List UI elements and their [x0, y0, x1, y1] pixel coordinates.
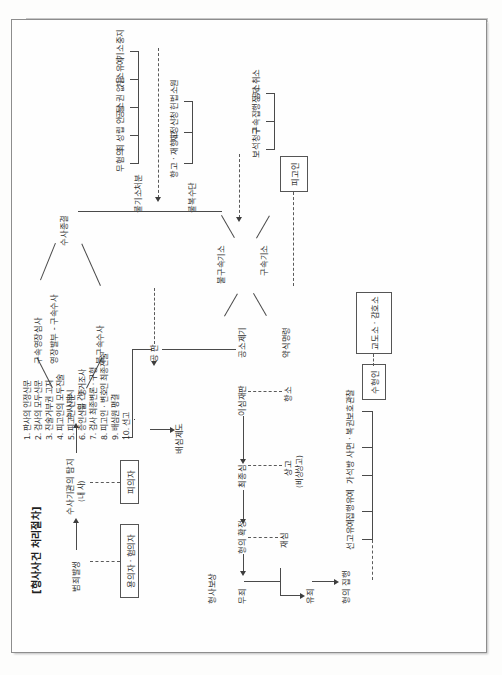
- accused-box: 피의자: [120, 460, 139, 504]
- connector-final-to-confirm: [243, 490, 244, 520]
- nonprosecution-tick: [130, 51, 139, 52]
- verdict-split-spine: [280, 568, 281, 596]
- arrow-left-icon: [240, 459, 246, 464]
- appeal-means-header: 불복수단: [188, 182, 197, 213]
- appeal-means-tick: [184, 101, 193, 102]
- page-title: [형사사건 처리절차]: [28, 506, 43, 594]
- link-convict-to-prison: [373, 354, 374, 366]
- trial-step-7: 8. 피고인 · 변호인 최종진술: [101, 353, 109, 440]
- defendant-right-2: 공소취소: [252, 69, 261, 100]
- arrow-left-icon: [240, 571, 246, 576]
- sentence-options-spine: [372, 412, 373, 540]
- link-to-first-appeal: [248, 391, 282, 392]
- defendant-rights-tick: [266, 121, 275, 122]
- nonprosecution-tick: [130, 135, 139, 136]
- flowchart-canvas: [형사사건 처리절차] 범죄발생 수사기관의 탐지 (내 사) 수사개시 (입 …: [12, 0, 482, 616]
- node-warrant-issued: 영장발부 - 구속수사: [50, 294, 59, 364]
- arrow-right-icon: [73, 518, 79, 523]
- merge-upper-branch: [40, 243, 56, 280]
- link-to-second-appeal: [248, 465, 282, 466]
- scanned-page: [형사사건 처리절차] 범죄발생 수사기관의 탐지 (내 사) 수사개시 (입 …: [0, 0, 502, 675]
- node-summary-order: 약식명령: [282, 327, 291, 358]
- sentence-tick: [362, 447, 373, 448]
- appeal-means-tick: [184, 163, 193, 164]
- defendant-box: 피고인: [280, 156, 308, 192]
- sentence-option-0: 선고유예: [346, 519, 355, 550]
- connector-trial-to-jury: [150, 429, 172, 430]
- node-trial: 공 판: [150, 344, 159, 362]
- merge-prosecution-lower: [253, 293, 267, 316]
- sentence-tick: [362, 475, 373, 476]
- sentence-option-3: 사면 · 복권: [346, 419, 355, 458]
- node-confirmation: 형의 확정: [238, 520, 247, 554]
- node-investigation-end: 수사종결: [60, 215, 69, 246]
- trial-step-9: 10. 선고: [123, 412, 131, 440]
- arrow-left-icon: [151, 361, 157, 366]
- link-rights-to-prosecution: [239, 154, 240, 218]
- nonprosecution-tick: [130, 107, 139, 108]
- prosecution-fork-upper: [221, 215, 235, 238]
- trial-step-8: 9. 배심원 평결: [112, 394, 120, 440]
- connector-first-to-final: [243, 430, 244, 460]
- appeal-means-bracket-spine: [192, 102, 193, 164]
- connector-confirm-to-verdict: [243, 554, 244, 572]
- nonprosecution-tick: [130, 79, 139, 80]
- link-accused-to-open: [90, 482, 120, 483]
- appeal-second-sub: (비상상고): [296, 455, 304, 488]
- node-criminal-compensation: 형사보상: [208, 573, 217, 604]
- defendant-rights-tick: [266, 149, 275, 150]
- appeal-means-tick: [184, 132, 193, 133]
- spine-indictment-to-trial: [162, 349, 236, 350]
- node-final-instance: 최종심: [238, 465, 247, 488]
- arrow-left-icon: [155, 197, 161, 202]
- sentence-option-4: 보호관찰: [346, 389, 355, 420]
- link-to-retrial: [248, 537, 278, 538]
- node-investigation-notice-sub: (내 사): [78, 481, 86, 502]
- verdict-branch-guilty: [280, 595, 302, 596]
- trial-step-1: 2. 검사의 모두신문: [35, 381, 43, 440]
- trial-steps-bracket-spine: [132, 350, 133, 438]
- link-summary-to-trial: [154, 288, 155, 344]
- defendant-rights-tick: [266, 93, 275, 94]
- sentence-tick: [362, 511, 373, 512]
- trial-step-5: 6. 증인신문 · 증거조사: [79, 369, 87, 440]
- link-suspect-to-notice: [90, 561, 120, 562]
- spacer: [134, 419, 135, 420]
- nonprosecution-item-0: 무혐의: [116, 149, 125, 172]
- arrow-left-icon: [236, 217, 242, 222]
- node-guilty: 유죄: [306, 588, 315, 604]
- appeal-retrial: 재심: [280, 532, 289, 548]
- node-detained-prosecution: 구속기소: [260, 245, 269, 276]
- connector-trial-to-first: [243, 416, 244, 430]
- node-jury-system: 배심제도: [175, 423, 184, 454]
- node-non-detained-prosecution: 불구속기소: [217, 245, 226, 284]
- trial-steps-stem: [132, 349, 152, 350]
- suspect-box: 용의자 · 혐의자: [120, 524, 139, 598]
- link-defendant-to-indictment: [293, 192, 294, 286]
- verdict-split-stem: [244, 581, 280, 582]
- appeal-first: 항소: [284, 386, 293, 402]
- arrow-down-icon: [170, 427, 175, 433]
- appeal-means-item-1: 재정신청: [170, 111, 179, 142]
- node-execution: 형의 집행: [342, 570, 351, 604]
- nonprosecution-item-4: 기소중지: [116, 29, 125, 60]
- trial-step-6: 7. 검사 최종변론 · 구형: [90, 367, 98, 440]
- connector-guilty-to-execution: [312, 581, 336, 582]
- trial-step-0: 1. 판사의 인정신문: [24, 381, 32, 440]
- trial-step-4: 5. 피고인 신문: [68, 394, 76, 440]
- node-indictment: 공소제기: [238, 327, 247, 358]
- nonprosecution-bracket-spine: [138, 52, 139, 164]
- connector-start-to-notice: [76, 522, 77, 550]
- appeal-second: 상고: [284, 460, 293, 476]
- sentence-option-1: 집행유예: [346, 489, 355, 520]
- trial-step-3: 4. 피고인의 모두진술: [57, 374, 65, 440]
- prison-box: 교도소 · 감호소: [356, 292, 392, 354]
- link-execution-to-options: [372, 540, 373, 580]
- convict-box: 수형인: [362, 364, 386, 400]
- node-not-guilty: 무죄: [238, 588, 247, 604]
- nonprosecution-item-3: 기소유예: [116, 57, 125, 88]
- merge-lower-branch: [81, 244, 101, 286]
- sentence-tick: [362, 411, 373, 412]
- merge-prosecution-upper: [224, 293, 238, 316]
- nonprosecution-tick: [130, 163, 139, 164]
